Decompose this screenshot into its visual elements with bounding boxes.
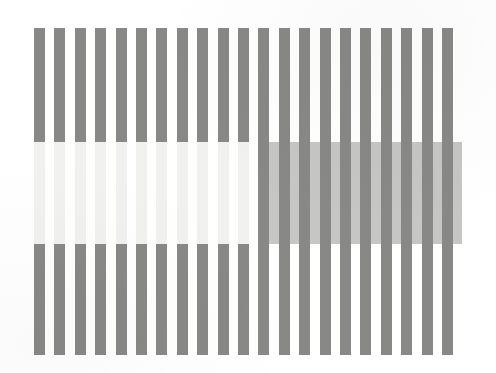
test-band <box>34 142 462 244</box>
whites-illusion-figure <box>34 28 462 355</box>
light-test-patch-group <box>34 142 258 244</box>
dark-test-patch-group <box>258 142 462 244</box>
illusion-canvas <box>0 0 496 373</box>
